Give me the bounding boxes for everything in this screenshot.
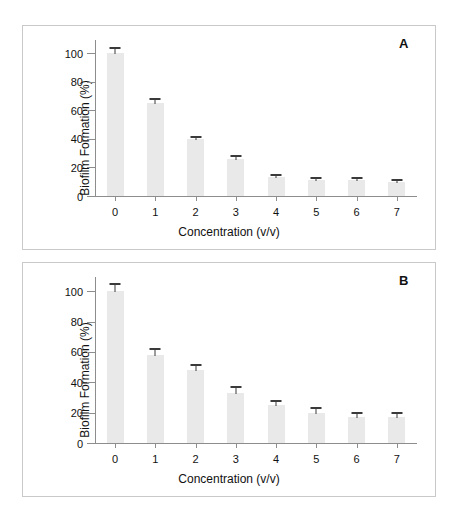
panel-b-bar	[268, 405, 285, 443]
panel-b-x-tick	[115, 444, 116, 448]
panel-a-error-bar-cap	[351, 177, 362, 179]
panel-b-error-bar-cap	[351, 412, 362, 414]
panel-a-x-tick	[196, 197, 197, 201]
panel-a-error-bar-cap	[150, 98, 161, 100]
panel-a-y-tick-label: 40	[71, 133, 83, 145]
panel-a-y-tick: 20	[87, 167, 95, 168]
panel-a-x-tick	[397, 197, 398, 201]
panel-b-y-tick-label: 60	[71, 346, 83, 358]
panel-a-bar	[388, 182, 405, 196]
panel-a-y-tick-label: 0	[77, 191, 83, 203]
panel-a-y-tick: 40	[87, 139, 95, 140]
panel-a-error-bar-cap	[391, 179, 402, 181]
panel-a-x-tick	[115, 197, 116, 201]
panel-b-x-tick	[276, 444, 277, 448]
panel-b-x-tick-label: 1	[152, 453, 158, 465]
panel-a-bar	[227, 159, 244, 196]
panel-a-x-tick-label: 7	[394, 206, 400, 218]
panel-b-y-tick: 0	[87, 443, 95, 444]
panel-b-bar	[187, 370, 204, 443]
panel-a-x-tick	[357, 197, 358, 201]
panel-b-error-bar-stem	[235, 388, 236, 394]
panel-a-x-tick-label: 3	[233, 206, 239, 218]
panel-a-x-tick	[316, 197, 317, 201]
panel-b-error-bar-stem	[155, 350, 156, 356]
panel-a-error-bar-stem	[235, 157, 236, 160]
panel-b-error-bar-stem	[356, 414, 357, 419]
panel-b-x-tick-label: 5	[313, 453, 319, 465]
panel-a-y-tick-label: 20	[71, 162, 83, 174]
panel-b-y-tick: 60	[87, 352, 95, 353]
panel-a-y-tick-label: 100	[65, 48, 83, 60]
panel-b-x-tick-label: 6	[354, 453, 360, 465]
panel-b-y-tick-label: 40	[71, 377, 83, 389]
panel-a-error-bar-stem	[155, 100, 156, 104]
panel-b-x-axis-line	[95, 443, 417, 444]
panel-b-x-tick	[316, 444, 317, 448]
panel-b-bar	[107, 291, 124, 443]
panel-b-y-tick-label: 100	[65, 286, 83, 298]
panel-b-error-bar-cap	[391, 412, 402, 414]
panel-b-bar	[227, 393, 244, 443]
panel-b-y-tick: 20	[87, 413, 95, 414]
panel-a-x-tick-label: 6	[354, 206, 360, 218]
panel-a-y-axis-line	[95, 40, 96, 197]
panel-b-error-bar-cap	[230, 386, 241, 388]
panel-b-y-tick: 100	[87, 291, 95, 292]
panel-b-error-bar-cap	[110, 283, 121, 285]
panel-a-bar	[308, 180, 325, 196]
panel-b-y-axis-line	[95, 277, 96, 444]
panel-b-y-tick: 80	[87, 322, 95, 323]
panel-a-error-bar-stem	[115, 49, 116, 55]
panel-a-error-bar-cap	[230, 155, 241, 157]
panel-a-y-tick: 80	[87, 82, 95, 83]
panel-a-error-bar-stem	[396, 181, 397, 183]
panel-b-error-bar-cap	[190, 364, 201, 366]
panel-a-y-tick: 100	[87, 53, 95, 54]
panel-b-x-tick	[236, 444, 237, 448]
panel-b-x-tick-label: 4	[273, 453, 279, 465]
panel-b: B Biofilm Formation (%) Concentration (v…	[22, 262, 436, 497]
panel-b-y-tick-label: 20	[71, 407, 83, 419]
panel-b-error-bar-cap	[150, 348, 161, 350]
panel-a-error-bar-stem	[195, 138, 196, 140]
panel-b-x-tick-label: 2	[193, 453, 199, 465]
panel-b-y-tick-label: 80	[71, 316, 83, 328]
panel-b-bar	[348, 417, 365, 443]
panel-b-error-bar-stem	[396, 414, 397, 419]
panel-a-bar	[348, 180, 365, 196]
panel-a-error-bar-cap	[190, 136, 201, 138]
panel-b-x-tick	[397, 444, 398, 448]
panel-b-error-bar-stem	[115, 285, 116, 293]
panel-a-y-tick: 60	[87, 110, 95, 111]
panel-a-y-tick-label: 80	[71, 76, 83, 88]
panel-a-error-bar-stem	[356, 179, 357, 181]
panel-b-error-bar-stem	[195, 366, 196, 371]
panel-b-x-tick	[155, 444, 156, 448]
panel-b-x-axis-title: Concentration (v/v)	[23, 472, 435, 486]
panel-a-x-tick-label: 1	[152, 206, 158, 218]
panel-b-bar	[308, 413, 325, 443]
panel-a-bar	[187, 139, 204, 196]
panel-a-x-tick	[236, 197, 237, 201]
panel-b-y-tick-label: 0	[77, 438, 83, 450]
panel-b-bar	[388, 417, 405, 443]
panel-a-x-tick	[155, 197, 156, 201]
panel-a-x-tick-label: 2	[193, 206, 199, 218]
panel-b-plot-area: 02040608010001234567	[95, 277, 417, 444]
panel-b-x-tick	[196, 444, 197, 448]
panel-a-bar	[268, 177, 285, 196]
panel-b-error-bar-stem	[276, 402, 277, 407]
panel-a-error-bar-cap	[110, 47, 121, 49]
panel-b-error-bar-cap	[311, 407, 322, 409]
panel-a-x-tick-label: 4	[273, 206, 279, 218]
panel-a-error-bar-stem	[276, 176, 277, 179]
panel-a-y-tick: 0	[87, 196, 95, 197]
panel-a-bar	[107, 53, 124, 196]
panel-a-x-tick-label: 0	[112, 206, 118, 218]
panel-b-error-bar-cap	[271, 400, 282, 402]
panel-a-error-bar-cap	[311, 177, 322, 179]
panel-a-x-tick-label: 5	[313, 206, 319, 218]
panel-b-x-tick	[357, 444, 358, 448]
panel-b-y-tick: 40	[87, 382, 95, 383]
